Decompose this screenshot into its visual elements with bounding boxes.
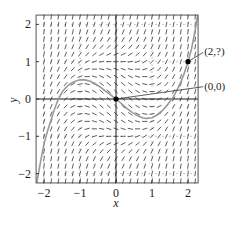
slope-mark <box>100 105 104 108</box>
slope-mark <box>51 29 52 34</box>
slope-mark <box>51 156 52 161</box>
slope-mark <box>195 156 196 161</box>
slope-mark <box>93 156 95 161</box>
marked-points: (2,?)(0,0) <box>113 45 225 101</box>
slope-mark <box>43 67 44 72</box>
y-tick-label: −1 <box>18 129 31 143</box>
slope-mark <box>44 44 45 49</box>
slope-mark <box>51 164 52 169</box>
slope-mark <box>157 127 160 131</box>
x-tick-label: −1 <box>74 186 87 200</box>
slope-mark <box>65 37 66 42</box>
slope-mark <box>195 37 196 42</box>
slope-mark <box>85 84 90 85</box>
slope-mark <box>121 120 125 123</box>
slope-mark <box>122 22 124 27</box>
slope-mark <box>144 171 145 176</box>
slope-mark <box>71 113 75 116</box>
slope-mark <box>86 164 88 169</box>
slope-mark <box>79 44 81 49</box>
slope-mark <box>93 149 96 153</box>
slope-mark <box>43 104 45 109</box>
slope-mark <box>128 105 132 108</box>
slope-mark <box>93 29 95 34</box>
slope-mark <box>143 142 146 146</box>
slope-mark <box>173 171 174 176</box>
slope-mark <box>72 37 74 42</box>
slope-mark <box>135 121 140 122</box>
slope-mark <box>137 22 138 27</box>
slope-mark <box>173 44 174 49</box>
slope-mark <box>107 105 111 109</box>
slope-mark <box>188 171 189 176</box>
slope-mark <box>143 149 146 153</box>
slope-mark <box>143 52 146 56</box>
slope-mark <box>92 76 97 77</box>
slope-mark <box>50 67 52 72</box>
slope-mark <box>129 149 132 153</box>
slope-mark <box>195 171 196 176</box>
slope-mark <box>70 90 75 92</box>
slope-mark <box>173 59 175 64</box>
slope-mark <box>72 44 74 49</box>
slope-mark <box>92 113 97 115</box>
slope-mark <box>165 59 167 64</box>
slope-mark <box>137 171 138 176</box>
slope-mark <box>128 120 133 122</box>
slope-mark <box>195 82 196 87</box>
slope-mark <box>72 164 73 169</box>
slope-mark <box>51 171 52 176</box>
slope-mark <box>195 59 196 64</box>
slope-mark <box>144 37 146 42</box>
slope-mark <box>58 164 59 169</box>
slope-mark <box>43 119 44 124</box>
slope-mark <box>187 104 189 109</box>
slope-mark <box>142 91 147 93</box>
slope-mark <box>195 104 196 109</box>
slope-mark <box>149 84 154 85</box>
slope-mark <box>173 156 174 161</box>
slope-mark <box>64 112 67 116</box>
slope-mark <box>51 149 52 154</box>
slope-mark <box>158 156 160 161</box>
slope-mark <box>65 22 66 27</box>
slope-mark <box>51 52 52 57</box>
slope-mark <box>121 112 125 115</box>
slope-mark <box>108 29 110 34</box>
slope-mark <box>86 45 89 49</box>
slope-mark <box>172 104 175 108</box>
slope-mark <box>93 37 95 42</box>
slope-mark <box>157 105 162 107</box>
slope-mark <box>195 67 196 72</box>
slope-mark <box>65 29 66 34</box>
slope-mark <box>107 120 111 123</box>
slope-mark <box>173 164 174 169</box>
slope-mark <box>99 142 103 145</box>
slope-mark <box>165 127 168 131</box>
slope-mark <box>64 82 67 86</box>
slope-mark <box>64 105 68 109</box>
slope-mark <box>129 29 131 34</box>
slope-mark <box>166 29 167 34</box>
slope-mark <box>135 76 140 77</box>
slope-mark <box>195 141 196 146</box>
slope-mark <box>121 128 126 130</box>
slope-mark <box>92 53 96 56</box>
slope-mark <box>50 89 52 94</box>
slope-mark <box>157 120 161 123</box>
slope-mark <box>57 112 60 117</box>
slope-mark <box>106 143 111 145</box>
slope-mark <box>150 76 155 78</box>
slope-mark <box>58 171 59 176</box>
slope-mark <box>101 29 103 34</box>
slope-mark <box>92 142 96 145</box>
slope-mark <box>107 156 110 160</box>
slope-mark <box>99 120 104 122</box>
slope-mark <box>129 37 132 42</box>
slope-mark <box>136 37 138 42</box>
slope-mark <box>85 142 88 146</box>
slope-mark <box>136 45 139 49</box>
slope-mark <box>142 128 147 129</box>
slope-mark <box>180 44 181 49</box>
slope-mark <box>130 171 132 176</box>
